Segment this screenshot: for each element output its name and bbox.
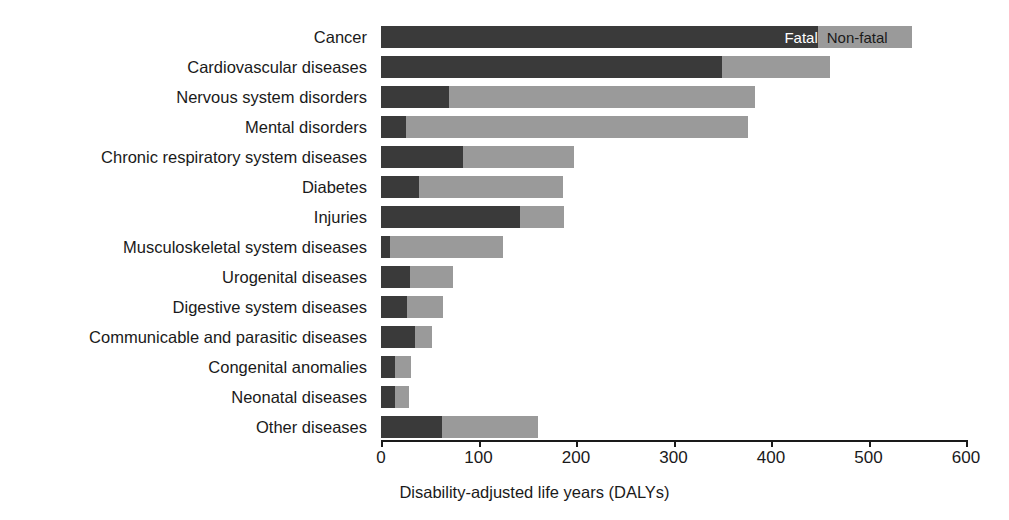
bar-segment-fatal bbox=[381, 416, 442, 438]
x-axis-tick-label: 400 bbox=[757, 449, 785, 466]
bar-segment-fatal bbox=[381, 206, 520, 228]
category-label: Injuries bbox=[0, 206, 374, 228]
bar-segment-fatal bbox=[381, 266, 410, 288]
x-axis-tick-label: 600 bbox=[952, 449, 980, 466]
x-axis-title: Disability-adjusted life years (DALYs) bbox=[0, 484, 1009, 501]
category-label: Urogenital diseases bbox=[0, 266, 374, 288]
x-axis-tick bbox=[869, 440, 871, 447]
bar-chart: CancerCardiovascular diseasesNervous sys… bbox=[0, 0, 1009, 520]
bar-row bbox=[381, 386, 966, 408]
category-label: Neonatal diseases bbox=[0, 386, 374, 408]
bar-segment-non-fatal bbox=[390, 236, 503, 258]
bar-row bbox=[381, 416, 966, 438]
x-axis-title-text: Disability-adjusted life years (DALYs) bbox=[399, 484, 669, 501]
x-axis-tick bbox=[674, 440, 676, 447]
bar-segment-non-fatal bbox=[406, 116, 747, 138]
bar-segment-non-fatal bbox=[395, 356, 412, 378]
category-label: Other diseases bbox=[0, 416, 374, 438]
bar-row bbox=[381, 326, 966, 348]
x-axis-tick-label: 0 bbox=[376, 449, 385, 466]
category-label: Musculoskeletal system diseases bbox=[0, 236, 374, 258]
bar-segment-non-fatal bbox=[410, 266, 453, 288]
category-axis-labels: CancerCardiovascular diseasesNervous sys… bbox=[0, 26, 374, 446]
bar-row bbox=[381, 116, 966, 138]
bar-row bbox=[381, 176, 966, 198]
bar-segment-non-fatal bbox=[722, 56, 829, 78]
bar-row bbox=[381, 56, 966, 78]
category-label: Diabetes bbox=[0, 176, 374, 198]
category-label: Nervous system disorders bbox=[0, 86, 374, 108]
x-axis-tick bbox=[381, 440, 383, 447]
category-label: Cancer bbox=[0, 26, 374, 48]
bar-segment-non-fatal bbox=[818, 26, 913, 48]
bar-segment-non-fatal bbox=[395, 386, 410, 408]
bar-segment-fatal bbox=[381, 116, 406, 138]
bar-segment-fatal bbox=[381, 386, 395, 408]
x-axis-tick-label: 500 bbox=[854, 449, 882, 466]
bar-segment-non-fatal bbox=[442, 416, 538, 438]
bar-segment-fatal bbox=[381, 56, 722, 78]
category-label: Chronic respiratory system diseases bbox=[0, 146, 374, 168]
bar-row bbox=[381, 236, 966, 258]
bar-row bbox=[381, 86, 966, 108]
bar-segment-non-fatal bbox=[463, 146, 574, 168]
bar-row bbox=[381, 296, 966, 318]
bar-row bbox=[381, 146, 966, 168]
bar-segment-non-fatal bbox=[407, 296, 443, 318]
category-label: Mental disorders bbox=[0, 116, 374, 138]
category-label: Communicable and parasitic diseases bbox=[0, 326, 374, 348]
x-axis-tick-label: 200 bbox=[562, 449, 590, 466]
bar-segment-non-fatal bbox=[419, 176, 563, 198]
bar-segment-non-fatal bbox=[415, 326, 432, 348]
bar-segment-fatal bbox=[381, 146, 463, 168]
category-label: Cardiovascular diseases bbox=[0, 56, 374, 78]
x-axis-tick bbox=[771, 440, 773, 447]
category-label: Digestive system diseases bbox=[0, 296, 374, 318]
bar-segment-fatal bbox=[381, 356, 395, 378]
bar-segment-fatal bbox=[381, 86, 449, 108]
x-axis-tick bbox=[966, 440, 968, 447]
bar-segment-fatal bbox=[381, 326, 415, 348]
bar-segment-fatal bbox=[381, 176, 419, 198]
bar-row bbox=[381, 26, 966, 48]
x-axis-tick-label: 300 bbox=[659, 449, 687, 466]
plot-area bbox=[381, 26, 966, 440]
bar-row bbox=[381, 266, 966, 288]
bar-row bbox=[381, 206, 966, 228]
bar-row bbox=[381, 356, 966, 378]
bar-segment-non-fatal bbox=[449, 86, 755, 108]
bar-segment-fatal bbox=[381, 26, 818, 48]
bar-segment-fatal bbox=[381, 236, 390, 258]
bar-segment-fatal bbox=[381, 296, 407, 318]
x-axis-tick-label: 100 bbox=[464, 449, 492, 466]
bar-segment-non-fatal bbox=[520, 206, 564, 228]
x-axis-tick bbox=[479, 440, 481, 447]
category-label: Congenital anomalies bbox=[0, 356, 374, 378]
x-axis-tick bbox=[576, 440, 578, 447]
